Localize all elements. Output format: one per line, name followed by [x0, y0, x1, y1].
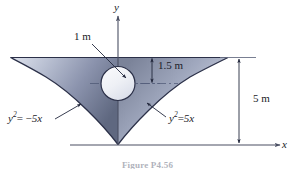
eq-left-rhs: 5x [32, 112, 42, 124]
left-wing-region [11, 58, 119, 145]
circular-hole [101, 67, 135, 101]
figure-container: y x 1 m 1.5 m 5 m y2= −5x y2=5x Figure P… [0, 0, 295, 169]
x-axis-label: x [282, 139, 287, 150]
dimension-label-5m: 5 m [253, 93, 270, 104]
equation-label-right-parabola: y2=5x [169, 113, 194, 124]
dimension-label-1-5m: 1.5 m [158, 60, 183, 71]
y-axis-label: y [114, 2, 119, 13]
equation-label-left-parabola: y2= −5x [8, 113, 42, 124]
dimension-label-1m: 1 m [74, 31, 91, 42]
eq-left-operator: = − [17, 112, 32, 124]
figure-caption: Figure P4.56 [0, 160, 295, 169]
eq-right-rhs: 5x [184, 112, 194, 124]
dimension-5m [220, 58, 256, 144]
engineering-figure-drawing [0, 0, 295, 169]
left-equation-leader [55, 104, 81, 119]
